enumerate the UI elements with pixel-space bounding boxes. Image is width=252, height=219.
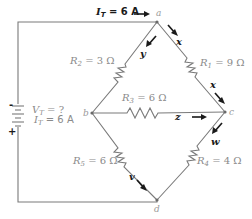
battery-negative-sign: -: [9, 99, 13, 110]
battery-positive-sign: +: [8, 126, 16, 137]
total-current-label: IT = 6 A: [95, 6, 139, 19]
resistor-r5-label: R5 = 6 Ω: [72, 155, 118, 168]
node-d-dot: [155, 198, 158, 201]
current-v-arrow-icon: [137, 180, 147, 191]
node-b-dot: [90, 111, 93, 114]
current-x-upper-arrow-icon: [168, 25, 178, 36]
resistor-r3-label: R3 = 6 Ω: [121, 92, 167, 105]
current-v-label: v: [129, 171, 135, 182]
current-z-arrow-icon: [192, 114, 207, 120]
current-w-arrow-icon: [212, 123, 222, 134]
current-z-label: z: [174, 111, 181, 122]
node-c-dot: [223, 110, 226, 113]
current-x-upper-label: x: [175, 36, 183, 47]
node-a-dot: [155, 20, 158, 23]
current-y-arrow-icon: [146, 36, 156, 47]
node-a-label: a: [156, 8, 161, 18]
battery-icon: [12, 106, 24, 126]
resistor-r2-label: R2 = 3 Ω: [69, 55, 115, 68]
circuit-diagram: - + VT = ? IT = 6 A IT = 6 A R2 = 3 Ω R1…: [0, 0, 252, 219]
current-y-label: y: [139, 48, 147, 59]
node-c-label: c: [229, 107, 234, 117]
resistor-r1-label: R1 = 9 Ω: [199, 57, 245, 70]
current-w-label: w: [211, 136, 220, 147]
node-b-label: b: [83, 108, 89, 118]
node-d-label: d: [154, 204, 160, 214]
resistor-r4-label: R4 = 4 Ω: [196, 155, 242, 168]
current-x-lower-label: x: [209, 79, 217, 90]
